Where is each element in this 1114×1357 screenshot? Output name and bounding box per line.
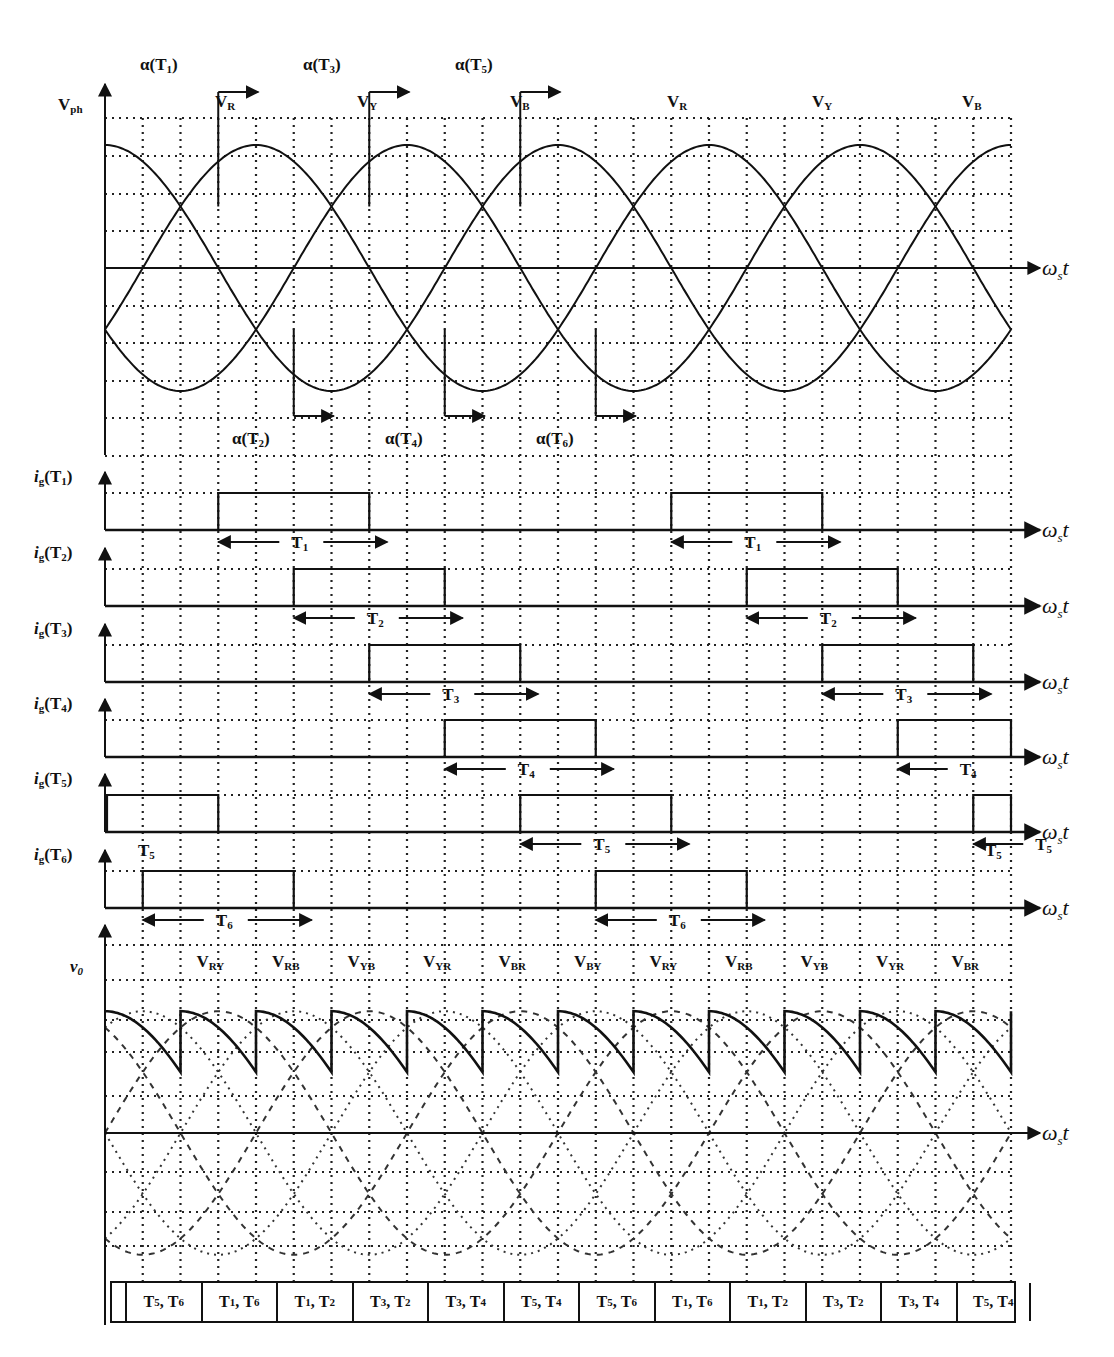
x-axis-label-gate-1: ωst <box>1042 519 1069 544</box>
output-segment-label-ry: VRY <box>197 953 225 972</box>
conduction-arrow-label-t4: T4 <box>960 761 977 780</box>
phase-label-b: VB <box>962 93 982 112</box>
conduction-table-cell: T5, T6 <box>125 1283 201 1321</box>
conduction-arrow-label-t6: T6 <box>216 912 233 931</box>
conduction-arrow-label-t1: T1 <box>744 534 761 553</box>
firing-angle-label-t4: α(T4) <box>385 430 423 449</box>
conduction-arrow-label-t4: T4 <box>518 761 535 780</box>
firing-angle-label-t3: α(T3) <box>303 56 341 75</box>
conduction-table-cell: T3, T2 <box>805 1283 881 1321</box>
phase-label-r: VR <box>667 93 687 112</box>
conduction-table-cell: T3, T4 <box>427 1283 503 1321</box>
gate-signal-label-t3: ig(T3) <box>34 620 72 639</box>
conduction-arrow-label-t1: T1 <box>291 534 308 553</box>
output-segment-label-rb: VRB <box>725 953 753 972</box>
conduction-label-t5-right: T5 <box>985 842 1002 861</box>
conduction-table-cell: T1, T6 <box>654 1283 730 1321</box>
gate-signal-label-t4: ig(T4) <box>34 695 72 714</box>
conduction-table-cell: T3, T4 <box>880 1283 956 1321</box>
conduction-arrow-label-t5: T5 <box>593 836 610 855</box>
phase-label-y: VY <box>357 93 377 112</box>
x-axis-label-gate-2: ωst <box>1042 595 1069 620</box>
conduction-arrow-label-t2: T2 <box>367 610 384 629</box>
conduction-table-cell: T5, T4 <box>503 1283 579 1321</box>
conduction-arrow-label-t6: T6 <box>669 912 686 931</box>
conduction-table-cell: T3, T2 <box>352 1283 428 1321</box>
phase-label-b: VB <box>510 93 530 112</box>
phase-label-y: VY <box>812 93 832 112</box>
conduction-arrow-label-t3: T3 <box>442 686 459 705</box>
output-segment-label-yb: VYB <box>801 953 829 972</box>
output-segment-label-ry: VRY <box>650 953 678 972</box>
conduction-table-cell: T5, T4 <box>956 1283 1032 1321</box>
conduction-table-cell: T1, T2 <box>729 1283 805 1321</box>
phase-label-r: VR <box>215 93 235 112</box>
y-axis-label-vph: Vph <box>58 96 83 115</box>
output-segment-label-yb: VYB <box>348 953 376 972</box>
x-axis-label-gate-3: ωst <box>1042 671 1069 696</box>
gate-signal-label-t1: ig(T1) <box>34 468 72 487</box>
output-segment-label-yr: VYR <box>876 953 904 972</box>
firing-angle-label-t5: α(T5) <box>455 56 493 75</box>
conduction-table-cell: T1, T2 <box>276 1283 352 1321</box>
output-segment-label-br: VBR <box>499 953 527 972</box>
gate-signal-label-t6: ig(T6) <box>34 846 72 865</box>
firing-angle-label-t6: α(T6) <box>536 430 574 449</box>
waveform-canvas <box>0 0 1114 1357</box>
output-segment-label-br: VBR <box>952 953 980 972</box>
x-axis-label-top: ωst <box>1042 257 1069 282</box>
x-axis-label-output: ωst <box>1042 1122 1069 1147</box>
output-segment-label-rb: VRB <box>272 953 300 972</box>
conduction-arrow-label-t2: T2 <box>820 610 837 629</box>
conduction-label-t5-left: T5 <box>138 842 155 861</box>
x-axis-label-gate-6: ωst <box>1042 897 1069 922</box>
conduction-table-cell: T5, T6 <box>578 1283 654 1321</box>
firing-angle-label-t2: α(T2) <box>232 430 270 449</box>
gate-signal-label-t5: ig(T5) <box>34 770 72 789</box>
firing-angle-label-t1: α(T1) <box>140 56 178 75</box>
gate-signal-label-t2: ig(T2) <box>34 544 72 563</box>
conduction-arrow-label-t3: T3 <box>895 686 912 705</box>
output-segment-label-yr: VYR <box>423 953 451 972</box>
conduction-table-cell: T1, T6 <box>201 1283 277 1321</box>
x-axis-label-gate-4: ωst <box>1042 746 1069 771</box>
conduction-arrow-label-t5: T5 <box>1035 836 1052 855</box>
y-axis-label-v0: v0 <box>70 958 83 977</box>
output-segment-label-by: VBY <box>574 953 602 972</box>
